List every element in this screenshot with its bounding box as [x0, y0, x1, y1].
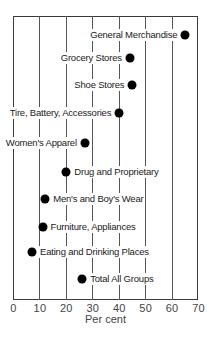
data-point-dot	[125, 54, 134, 63]
data-point-dot	[38, 223, 47, 232]
data-point-dot	[41, 195, 50, 204]
data-point-dot	[78, 275, 87, 284]
data-point-dot	[62, 167, 71, 176]
point-label: Tire, Battery, Accessories	[8, 107, 113, 119]
data-point-dot	[28, 247, 37, 256]
point-label: Shoe Stores	[72, 79, 126, 91]
data-point-dot	[181, 31, 190, 40]
point-label: Grocery Stores	[59, 52, 124, 64]
gridline	[172, 16, 173, 300]
point-label: Total All Groups	[88, 273, 155, 285]
point-label: Drug and Proprietary	[72, 166, 160, 178]
point-label: Furniture, Appliances	[49, 221, 138, 233]
dot-plot-chart: 010203040506070 General MerchandiseGroce…	[0, 0, 211, 337]
data-point-dot	[128, 81, 137, 90]
data-point-dot	[80, 138, 89, 147]
x-axis-label: Per cent	[0, 313, 211, 325]
point-label: Men's and Boy's Wear	[51, 193, 145, 205]
point-label: General Merchandise	[88, 29, 179, 41]
data-point-dot	[115, 108, 124, 117]
point-label: Women's Apparel	[4, 137, 79, 149]
point-label: Eating and Drinking Places	[38, 246, 151, 258]
